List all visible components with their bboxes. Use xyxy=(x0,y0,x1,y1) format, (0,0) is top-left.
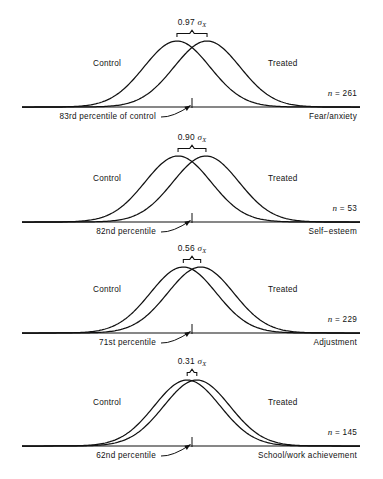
treated-distribution-curve xyxy=(22,156,360,222)
control-group-label: Control xyxy=(93,285,121,294)
effect-size-bracket xyxy=(178,145,206,152)
effect-size-label: 0.97 σX xyxy=(178,17,207,28)
effect-size-label: 0.31 σX xyxy=(178,356,207,367)
panel-school-work-achievement: 0.31 σXControlTreatedn = 14562nd percent… xyxy=(0,339,383,459)
treated-group-label: Treated xyxy=(268,285,298,294)
n-value: 229 xyxy=(343,315,357,324)
n-value: 261 xyxy=(343,89,357,98)
effect-size-bracket xyxy=(177,30,207,37)
control-distribution-curve xyxy=(22,156,360,222)
n-symbol: n xyxy=(328,427,333,437)
treated-group-label: Treated xyxy=(268,398,298,407)
effect-size-value: 0.90 xyxy=(178,132,195,142)
sigma-subscript: X xyxy=(202,136,206,143)
treated-distribution-curve xyxy=(22,41,360,107)
percentile-arrowhead xyxy=(184,106,190,111)
treated-group-label: Treated xyxy=(268,59,298,68)
panel-self-esteem: 0.90 σXControlTreatedn = 5382nd percenti… xyxy=(0,115,383,235)
effect-size-bracket xyxy=(187,369,197,376)
n-symbol: n xyxy=(328,88,333,98)
outcome-label: School/work achievement xyxy=(258,451,357,460)
treated-distribution-curve xyxy=(22,267,360,333)
sample-size-label: n = 229 xyxy=(328,314,357,324)
percentile-arrowhead xyxy=(184,445,190,450)
control-group-label: Control xyxy=(93,398,121,407)
n-value: 145 xyxy=(343,428,357,437)
n-equals: = xyxy=(335,428,340,437)
n-value: 53 xyxy=(347,204,357,213)
n-symbol: n xyxy=(333,203,338,213)
percentile-arrowhead xyxy=(184,332,190,337)
treated-group-label: Treated xyxy=(268,174,298,183)
n-equals: = xyxy=(335,315,340,324)
n-equals: = xyxy=(340,204,345,213)
effect-size-label: 0.56 σX xyxy=(178,243,207,254)
control-distribution-curve xyxy=(22,380,360,446)
percentile-label: 62nd percentile xyxy=(96,451,156,460)
sigma-subscript: X xyxy=(202,247,206,254)
sigma-subscript: X xyxy=(202,360,206,367)
panel-adjustment: 0.56 σXControlTreatedn = 22971st percent… xyxy=(0,226,383,346)
n-equals: = xyxy=(335,89,340,98)
sigma-subscript: X xyxy=(202,21,206,28)
control-distribution-curve xyxy=(22,41,360,107)
distribution-overlap-figure: 0.97 σXControlTreatedn = 26183rd percent… xyxy=(0,0,383,479)
control-group-label: Control xyxy=(93,174,121,183)
sample-size-label: n = 261 xyxy=(328,88,357,98)
sample-size-label: n = 145 xyxy=(328,427,357,437)
control-distribution-curve xyxy=(22,267,360,333)
effect-size-label: 0.90 σX xyxy=(178,132,207,143)
effect-size-bracket xyxy=(183,256,200,263)
treated-distribution-curve xyxy=(22,380,360,446)
n-symbol: n xyxy=(328,314,333,324)
sample-size-label: n = 53 xyxy=(333,203,357,213)
effect-size-value: 0.97 xyxy=(178,17,195,27)
effect-size-value: 0.31 xyxy=(178,356,195,366)
panel-fear-anxiety: 0.97 σXControlTreatedn = 26183rd percent… xyxy=(0,0,383,120)
control-group-label: Control xyxy=(93,59,121,68)
effect-size-value: 0.56 xyxy=(178,243,195,253)
